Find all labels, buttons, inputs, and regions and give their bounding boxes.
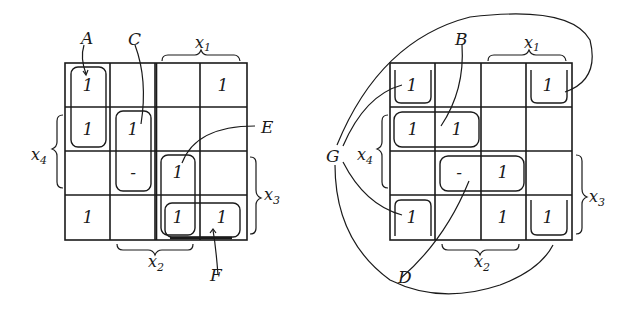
brace-x3-right: [576, 155, 587, 234]
right-pointers: [335, 14, 592, 294]
brace-x3: [250, 157, 261, 234]
var-x4: x4: [31, 145, 47, 167]
pointer-G-bottom-left: [343, 162, 402, 215]
var-x1-right: x1: [524, 33, 540, 54]
left-group-labels: A C E F: [79, 28, 274, 285]
right-cell-r3c2: 1: [498, 207, 509, 227]
right-cell-r0c3: 1: [543, 75, 554, 95]
var-x2: x2: [148, 252, 164, 274]
pointer-A: [82, 45, 86, 74]
label-G: G: [326, 146, 340, 166]
left-cell-r2c1: -: [130, 162, 136, 182]
loop-D: [440, 156, 524, 191]
left-cell-r2c2: 1: [173, 162, 184, 182]
right-cell-r1c1: 1: [452, 119, 463, 139]
right-cell-r3c3: 1: [543, 207, 554, 227]
left-karnaugh-map: 1 1 1 1 - 1 1 1 1 A: [31, 28, 280, 285]
pointer-G-top-left: [343, 85, 402, 146]
label-C: C: [128, 29, 141, 49]
var-x2-right: x2: [474, 252, 490, 274]
label-F: F: [209, 265, 223, 285]
left-cell-r3c2: 1: [173, 207, 184, 227]
left-cell-r0c0: 1: [83, 75, 94, 95]
var-x1: x1: [195, 33, 211, 54]
right-karnaugh-map: 1 1 1 1 - 1 1 1 1: [326, 14, 605, 294]
karnaugh-maps-diagram: 1 1 1 1 - 1 1 1 1 A: [0, 0, 636, 313]
right-cell-r3c0: 1: [407, 207, 418, 227]
left-cell-r0c3: 1: [218, 75, 229, 95]
right-cell-r2c1: -: [456, 162, 462, 182]
right-cell-r2c2: 1: [498, 162, 509, 182]
right-cell-r0c0: 1: [407, 75, 418, 95]
pointer-C: [135, 45, 143, 124]
left-cell-r3c0: 1: [83, 207, 94, 227]
brace-x4: [52, 115, 63, 188]
label-D: D: [397, 267, 412, 287]
brace-x4-right: [377, 115, 388, 188]
left-cell-r1c0: 1: [83, 119, 94, 139]
label-E: E: [260, 117, 274, 137]
var-x3-right: x3: [589, 187, 605, 209]
left-cell-r1c1: 1: [128, 119, 139, 139]
right-cell-r1c0: 1: [408, 119, 419, 139]
right-group-labels: B G D: [326, 29, 468, 287]
label-B: B: [454, 29, 468, 49]
left-cell-r3c3: 1: [217, 207, 228, 227]
pointer-B: [441, 45, 462, 126]
var-x4-right: x4: [357, 145, 373, 167]
var-x3: x3: [264, 185, 280, 207]
label-A: A: [79, 28, 93, 48]
